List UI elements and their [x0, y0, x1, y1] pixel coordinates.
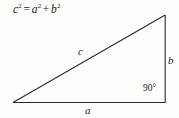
triangle-shape	[0, 0, 179, 118]
side-label-a: a	[85, 105, 91, 116]
side-label-c: c	[78, 46, 83, 57]
right-angle-label: 90°	[143, 84, 156, 94]
side-label-b: b	[168, 55, 174, 66]
pythagorean-theorem-figure: c2=a2+b2 a b c 90°	[0, 0, 179, 118]
